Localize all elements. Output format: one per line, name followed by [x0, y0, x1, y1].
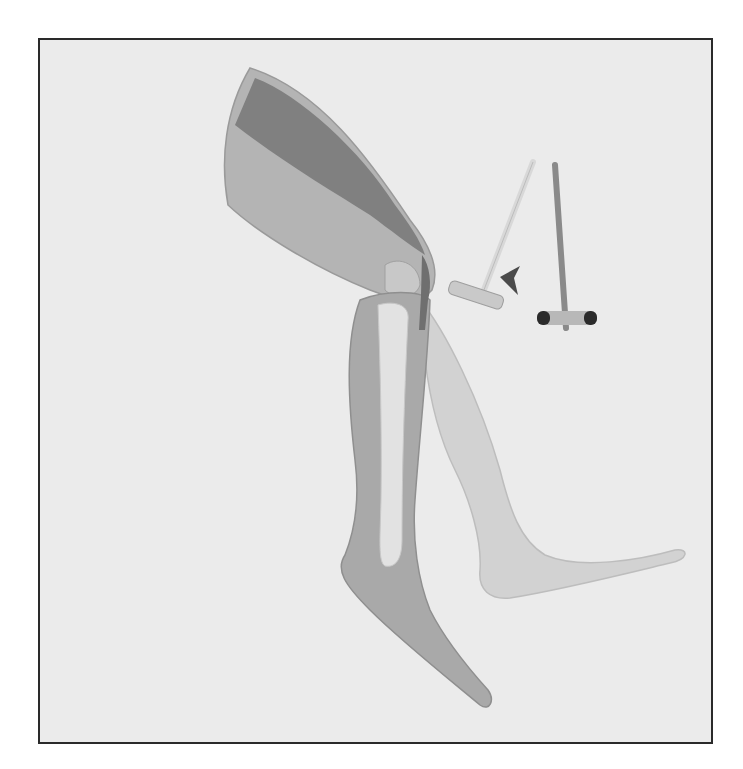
reflex-hammer-motion — [447, 162, 533, 310]
kicked-leg — [420, 300, 685, 598]
thigh — [224, 68, 434, 299]
reflex-hammer — [537, 165, 597, 328]
reflex-illustration — [0, 0, 743, 769]
